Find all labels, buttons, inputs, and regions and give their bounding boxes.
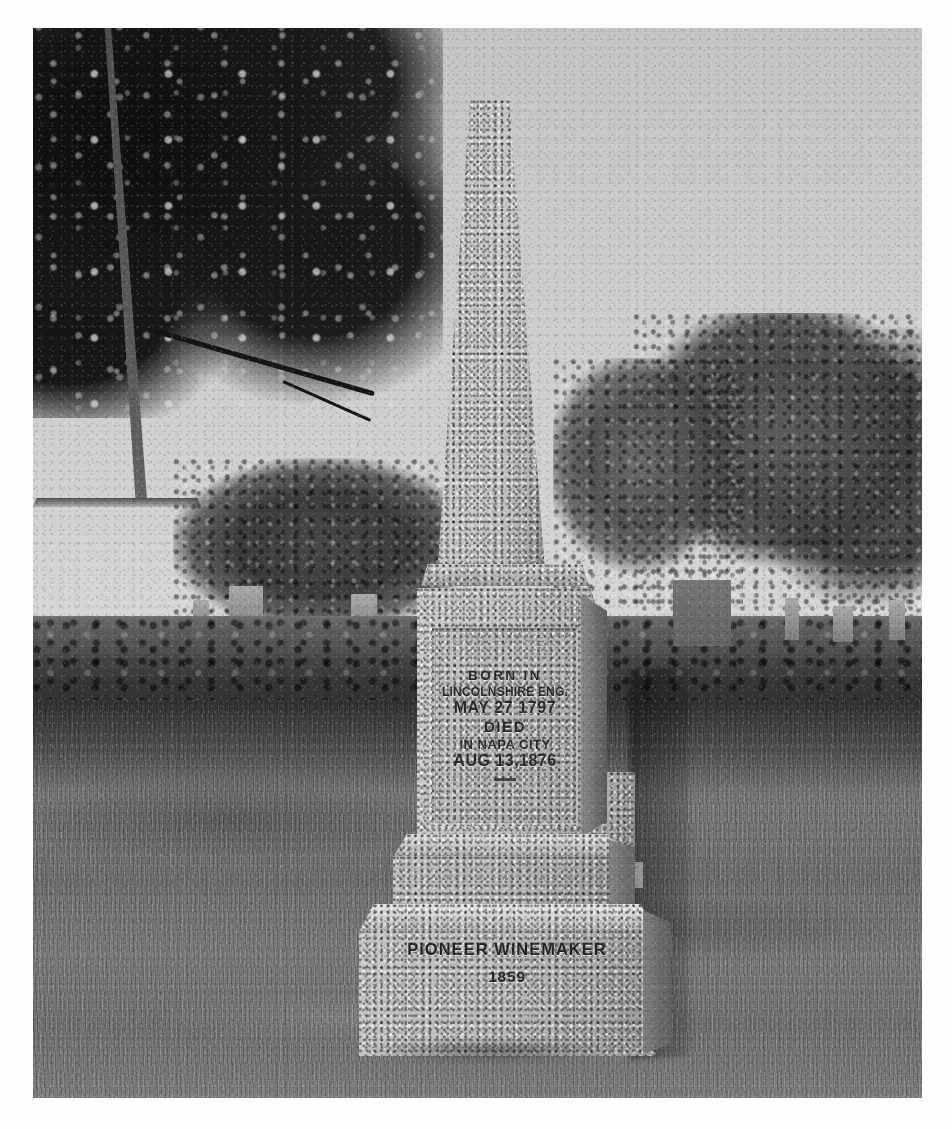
shaft-cap-molding xyxy=(421,564,589,586)
base-cap xyxy=(359,904,655,932)
granite-texture xyxy=(421,564,589,586)
inscription-panel: OUR FATHER BORN IN LINCOLNSHIRE ENG. MAY… xyxy=(432,628,578,826)
cap-molding-shadow xyxy=(33,498,201,507)
inscription-line-4: DIED xyxy=(484,719,526,734)
base-inscription: PIONEER WINEMAKER 1859 xyxy=(359,934,655,1004)
granite-texture xyxy=(359,904,655,932)
granite-texture xyxy=(393,834,621,858)
base-inscription-line-2: 1859 xyxy=(488,968,526,986)
photograph-white-margin: OUR FATHER BORN IN LINCOLNSHIRE ENG. MAY… xyxy=(0,0,952,1129)
plinth-cap xyxy=(393,834,621,858)
plinth-shadowed-face xyxy=(609,840,635,910)
obelisk-shaft xyxy=(431,100,559,570)
base-inscription-line-1: PIONEER WINEMAKER xyxy=(407,940,606,959)
granite-texture xyxy=(393,856,621,908)
inscription-line-3: MAY 27 1797 xyxy=(454,700,557,716)
inscription-divider-rule xyxy=(494,778,516,781)
inscription-line-2: LINCOLNSHIRE ENG. xyxy=(442,686,568,698)
granite-texture xyxy=(431,100,559,570)
inscription-line-1: BORN IN xyxy=(468,669,542,683)
inscription-weathered-heading: OUR FATHER xyxy=(452,634,558,649)
die-block-shadowed-face xyxy=(581,594,607,838)
obelisk-shaft-shadowed-face xyxy=(33,28,161,498)
photograph-image: OUR FATHER BORN IN LINCOLNSHIRE ENG. MAY… xyxy=(33,28,922,1098)
obelisk-monument: OUR FATHER BORN IN LINCOLNSHIRE ENG. MAY… xyxy=(33,28,922,1098)
inscription-lines: OUR FATHER BORN IN LINCOLNSHIRE ENG. MAY… xyxy=(432,628,578,826)
monument-ground-shadow xyxy=(359,1040,689,1066)
inscription-line-5: IN NAPA CITY xyxy=(459,738,550,751)
inscription-line-6: AUG 13,1876 xyxy=(453,753,556,769)
plinth-body xyxy=(393,856,621,908)
